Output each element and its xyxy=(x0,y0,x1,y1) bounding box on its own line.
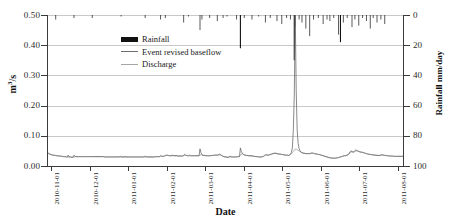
secondary-y-tick-label: 80 xyxy=(413,131,443,140)
legend-label-discharge: Discharge xyxy=(142,58,176,71)
x-tick-label: 2011-03-01 xyxy=(208,172,215,204)
legend-label-event-revised-baseflow: Event revised baseflow xyxy=(142,46,221,59)
y-tick-label: 0.10 xyxy=(0,131,40,140)
secondary-y-tick-mark xyxy=(404,75,410,76)
x-tick-mark xyxy=(359,167,360,171)
secondary-y-axis-title: Rainfall mm/day xyxy=(434,40,444,126)
x-tick-label: 2011-02-01 xyxy=(170,172,177,204)
x-tick-mark xyxy=(205,167,206,171)
x-tick-mark xyxy=(398,167,399,171)
y-tick-label: 0.40 xyxy=(0,41,40,50)
y-tick-label: 0.50 xyxy=(0,11,40,20)
baseflow-swatch-icon xyxy=(121,51,138,52)
secondary-y-tick-mark xyxy=(404,136,410,137)
x-axis-title: Date xyxy=(47,206,404,217)
x-tick-mark xyxy=(282,167,283,171)
x-tick-label: 2010-11-01 xyxy=(54,172,61,204)
legend: Rainfall Event revised baseflow Discharg… xyxy=(121,33,221,71)
legend-item-rainfall: Rainfall xyxy=(121,33,221,46)
rainfall-swatch-icon xyxy=(121,37,138,42)
x-tick-label: 2011-04-01 xyxy=(247,172,254,204)
x-tick-label: 2011-05-01 xyxy=(285,172,292,204)
legend-label-rainfall: Rainfall xyxy=(142,33,169,46)
secondary-y-tick-label: 0 xyxy=(413,11,443,20)
series-canvas xyxy=(48,15,403,166)
x-tick-label: 2011-08-01 xyxy=(401,172,408,204)
legend-item-discharge: Discharge xyxy=(121,58,221,71)
x-tick-mark xyxy=(128,167,129,171)
hydrograph-figure: m3/s 0.000.100.200.300.400.50 0204060801… xyxy=(0,0,453,224)
discharge-swatch-icon xyxy=(121,64,138,65)
x-tick-mark xyxy=(167,167,168,171)
discharge-line xyxy=(48,15,403,158)
x-tick-label: 2010-12-01 xyxy=(93,172,100,205)
x-axis-ticks: 2010-11-012010-12-012011-01-012011-02-01… xyxy=(0,167,453,207)
x-tick-label: 2011-01-01 xyxy=(131,172,138,204)
x-tick-label: 2011-07-01 xyxy=(362,172,369,204)
x-tick-label: 2011-06-01 xyxy=(324,172,331,204)
x-tick-mark xyxy=(244,167,245,171)
secondary-y-tick-mark xyxy=(404,45,410,46)
secondary-y-tick-mark xyxy=(404,106,410,107)
x-tick-mark xyxy=(321,167,322,171)
legend-item-event-revised-baseflow: Event revised baseflow xyxy=(121,46,221,59)
y-tick-label: 0.20 xyxy=(0,101,40,110)
secondary-y-tick-mark xyxy=(404,15,410,16)
plot-area: Rainfall Event revised baseflow Discharg… xyxy=(47,15,404,167)
x-tick-mark xyxy=(51,167,52,171)
y-tick-label: 0.30 xyxy=(0,71,40,80)
x-tick-mark xyxy=(90,167,91,171)
